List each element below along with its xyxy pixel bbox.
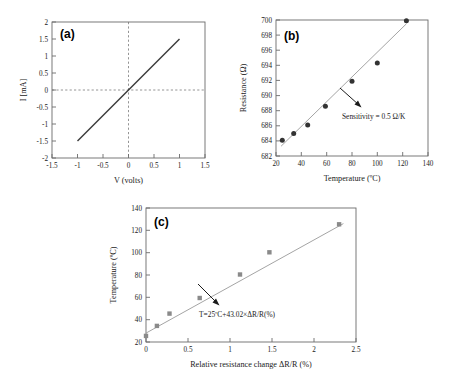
x-tick-label: 100 <box>372 160 383 168</box>
data-point <box>291 131 296 136</box>
panel-c-xlabel: Relative resistance change ΔR/R (%) <box>190 360 312 369</box>
y-tick-label: 80 <box>135 272 143 280</box>
panel-a-plot: 2 1.5 1 0.5 0 -0.5 -1 -1.5 -2 <box>0 0 228 190</box>
y-tick-label: 100 <box>131 249 142 257</box>
panel-c-data-points <box>144 222 341 338</box>
panel-c-x-ticks <box>146 338 356 342</box>
panel-c: 140 120 100 80 60 40 20 0 0.5 1 1.5 <box>88 190 388 378</box>
x-tick-label: 0.5 <box>150 162 159 170</box>
x-tick-label: 2.5 <box>352 346 361 354</box>
data-point <box>280 138 285 143</box>
x-tick-label: 120 <box>397 160 408 168</box>
y-tick-label: 20 <box>135 339 143 347</box>
x-tick-label: 0 <box>127 162 131 170</box>
figure-container: 2 1.5 1 0.5 0 -0.5 -1 -1.5 -2 <box>0 0 453 378</box>
data-point <box>375 61 380 66</box>
data-point <box>167 311 171 315</box>
panel-b-annotation-arrow <box>340 88 362 108</box>
y-tick-label: -1 <box>42 121 48 129</box>
panel-a-y-ticks <box>52 22 56 158</box>
x-tick-label: 40 <box>298 160 306 168</box>
panel-b-ylabel: Resistance (Ω) <box>239 63 248 112</box>
y-tick-label: 120 <box>131 227 142 235</box>
x-tick-label: 1.5 <box>268 346 277 354</box>
panel-b-annotation: Sensitivity = 0.5 Ω/K <box>342 112 406 121</box>
panel-c-x-tick-labels: 0 0.5 1 1.5 2 2.5 <box>144 346 361 354</box>
x-tick-label: 1 <box>178 162 182 170</box>
y-tick-label: 1 <box>44 53 48 61</box>
panel-c-plot: 140 120 100 80 60 40 20 0 0.5 1 1.5 <box>88 190 388 378</box>
panel-a-xlabel: V (volts) <box>114 176 143 185</box>
x-tick-label: 80 <box>348 160 356 168</box>
x-tick-label: 2 <box>312 346 316 354</box>
y-tick-label: 684 <box>261 137 272 145</box>
y-tick-label: 698 <box>261 32 272 40</box>
panel-a: 2 1.5 1 0.5 0 -0.5 -1 -1.5 -2 <box>0 0 228 190</box>
panel-c-y-tick-labels: 140 120 100 80 60 40 20 <box>131 205 142 347</box>
x-tick-label: 1.5 <box>201 162 210 170</box>
x-tick-label: -1 <box>75 162 81 170</box>
x-tick-label: 1 <box>228 346 232 354</box>
x-tick-label: 140 <box>423 160 434 168</box>
y-tick-label: 682 <box>261 153 272 161</box>
panel-a-ylabel: I [mA] <box>19 78 28 101</box>
x-tick-label: 60 <box>323 160 331 168</box>
data-point <box>305 123 310 128</box>
panel-a-x-tick-labels: -1.5 -1 -0.5 0 0.5 1 1.5 <box>46 162 210 170</box>
panel-label-a: (a) <box>60 27 75 41</box>
data-point <box>323 104 328 109</box>
y-tick-label: 60 <box>135 294 143 302</box>
panel-a-x-ticks <box>52 154 205 158</box>
x-tick-label: 20 <box>272 160 280 168</box>
y-tick-label: 0 <box>44 87 48 95</box>
x-tick-label: 0 <box>144 346 148 354</box>
panel-label-b: (b) <box>284 29 299 43</box>
y-tick-label: 0.5 <box>39 70 48 78</box>
panel-a-y-tick-labels: 2 1.5 1 0.5 0 -0.5 -1 -1.5 -2 <box>37 19 49 163</box>
panel-b-fit-line <box>281 24 406 146</box>
data-point <box>404 18 409 23</box>
y-tick-label: 696 <box>261 47 272 55</box>
data-point <box>267 250 271 254</box>
panel-b-y-ticks <box>276 20 280 156</box>
x-tick-label: -1.5 <box>46 162 58 170</box>
panel-b-x-tick-labels: 20 40 60 80 100 120 140 <box>272 160 433 168</box>
y-tick-label: 690 <box>261 92 272 100</box>
x-tick-label: -0.5 <box>97 162 109 170</box>
panel-b-xlabel: Temperature (ºC) <box>324 174 381 183</box>
panel-b: 700 698 696 694 692 690 688 686 684 682 <box>228 0 453 190</box>
panel-b-plot: 700 698 696 694 692 690 688 686 684 682 <box>228 0 453 190</box>
y-tick-label: 686 <box>261 122 272 130</box>
y-tick-label: 700 <box>261 17 272 25</box>
data-point <box>350 79 355 84</box>
x-tick-label: 0.5 <box>184 346 193 354</box>
y-tick-label: 692 <box>261 77 272 85</box>
data-point <box>198 296 202 300</box>
data-point <box>155 324 159 328</box>
y-tick-label: -0.5 <box>37 104 49 112</box>
y-tick-label: 688 <box>261 107 272 115</box>
data-point <box>337 222 341 226</box>
panel-c-y-ticks <box>146 208 150 342</box>
panel-b-x-ticks <box>276 152 428 156</box>
panel-b-y-tick-labels: 700 698 696 694 692 690 688 686 684 682 <box>261 17 272 161</box>
panel-c-ylabel: Temperature (ºC) <box>109 246 118 303</box>
panel-c-annotation: T=25ºC+43.02×ΔR/R(%) <box>199 310 276 319</box>
data-point <box>144 334 148 338</box>
y-tick-label: -1.5 <box>37 138 49 146</box>
y-tick-label: 40 <box>135 316 143 324</box>
y-tick-label: 2 <box>44 19 48 27</box>
panel-label-c: (c) <box>154 215 169 229</box>
y-tick-label: 140 <box>131 205 142 213</box>
y-tick-label: 694 <box>261 62 272 70</box>
y-tick-label: 1.5 <box>39 36 48 44</box>
data-point <box>238 272 242 276</box>
